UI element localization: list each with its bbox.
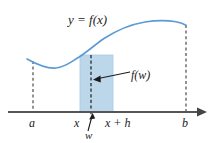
- x-tick-label-a: a: [29, 117, 35, 129]
- fw-label: f(w): [131, 69, 150, 81]
- x-tick-label-b: b: [182, 117, 188, 129]
- curve-label: y = f(x): [68, 13, 107, 26]
- shaded-rectangle: [80, 55, 113, 112]
- x-tick-label-x: x: [74, 117, 79, 129]
- x-axis-arrowhead: [197, 108, 207, 117]
- w-pointer-arrowhead: [89, 113, 95, 120]
- x-tick-label-x-plus-h: x + h: [105, 117, 130, 129]
- calculus-figure: y = f(x) f(w) a x x + h b w: [0, 0, 209, 143]
- x-tick-label-w: w: [85, 130, 92, 141]
